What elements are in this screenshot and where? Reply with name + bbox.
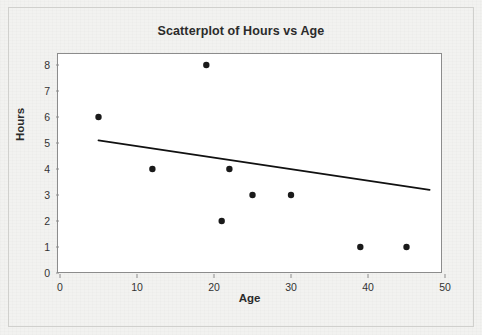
y-tick-label-8: 8 [28,59,50,71]
x-tick-label-40: 40 [353,281,383,293]
x-tick-label-0: 0 [45,281,75,293]
x-tick-label-20: 20 [199,281,229,293]
plot-area [57,53,442,273]
x-tick-label-10: 10 [122,281,152,293]
y-tick-label-5: 5 [28,137,50,149]
y-tick-label-1: 1 [28,241,50,253]
y-tick-label-0: 0 [28,267,50,279]
y-axis-title: Hours [14,108,26,141]
chart-title: Scatterplot of Hours vs Age [0,24,482,38]
x-axis-title: Age [57,292,442,304]
scatterplot-figure: Scatterplot of Hours vs Age Hours Age 01… [0,0,482,335]
y-tick-label-3: 3 [28,189,50,201]
y-tick-label-6: 6 [28,111,50,123]
y-tick-label-7: 7 [28,85,50,97]
x-tick-label-50: 50 [430,281,460,293]
x-tick-label-30: 30 [276,281,306,293]
y-tick-label-2: 2 [28,215,50,227]
y-tick-label-4: 4 [28,163,50,175]
